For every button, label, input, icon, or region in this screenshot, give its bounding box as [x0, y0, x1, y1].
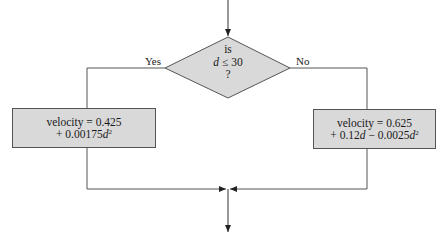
no-branch-line	[290, 68, 367, 109]
no-box-line2: + 0.12d − 0.0025d2	[330, 129, 418, 141]
yes-box-exponent: 2	[109, 128, 113, 136]
decision-question-mark: ?	[188, 68, 268, 81]
no-box-coef2: − 0.0025	[366, 129, 410, 141]
decision-condition: d ≤ 30	[188, 56, 268, 69]
decision-operator: ≤ 30	[219, 56, 243, 68]
yes-merge-line	[87, 148, 226, 189]
yes-box-coef: + 0.00175	[56, 128, 103, 140]
no-box-line1: velocity = 0.625	[337, 117, 412, 129]
no-process-box: velocity = 0.625 + 0.12d − 0.0025d2	[313, 109, 436, 149]
no-merge-line	[230, 149, 367, 189]
yes-box-line1: velocity = 0.425	[46, 116, 121, 128]
yes-box-line2: + 0.00175d2	[56, 128, 112, 140]
no-box-exponent: 2	[415, 129, 419, 137]
decision-text: is d ≤ 30 ?	[188, 43, 268, 81]
yes-process-box: velocity = 0.425 + 0.00175d2	[12, 108, 156, 148]
yes-branch-line	[87, 68, 165, 108]
yes-label: Yes	[145, 55, 161, 67]
decision-line1: is	[188, 43, 268, 56]
no-label: No	[296, 55, 309, 67]
no-box-coef1: + 0.12	[330, 129, 360, 141]
